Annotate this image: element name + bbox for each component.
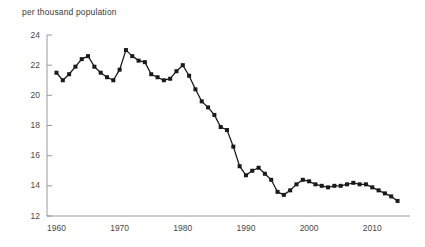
data-point bbox=[250, 169, 254, 173]
data-point bbox=[313, 182, 317, 186]
data-point bbox=[276, 190, 280, 194]
data-point bbox=[168, 77, 172, 81]
data-point bbox=[307, 179, 311, 183]
data-point bbox=[174, 69, 178, 73]
data-point bbox=[269, 178, 273, 182]
data-point bbox=[294, 182, 298, 186]
y-tick-label: 20 bbox=[14, 90, 40, 100]
data-point bbox=[193, 87, 197, 91]
series-line bbox=[56, 50, 397, 201]
data-point bbox=[339, 184, 343, 188]
data-point bbox=[118, 68, 122, 72]
x-tick-label: 1960 bbox=[36, 223, 76, 233]
data-point bbox=[263, 172, 267, 176]
data-point bbox=[105, 75, 109, 79]
data-point bbox=[67, 72, 71, 76]
data-point bbox=[345, 182, 349, 186]
chart-axis-title: per thousand population bbox=[22, 7, 117, 17]
data-point bbox=[137, 59, 141, 63]
data-point bbox=[288, 188, 292, 192]
data-point bbox=[282, 193, 286, 197]
data-point bbox=[212, 113, 216, 117]
data-point bbox=[187, 74, 191, 78]
data-point bbox=[370, 185, 374, 189]
data-point bbox=[396, 199, 400, 203]
y-tick-label: 22 bbox=[14, 60, 40, 70]
data-point bbox=[86, 54, 90, 58]
data-point bbox=[219, 125, 223, 129]
data-point bbox=[351, 181, 355, 185]
plot-area bbox=[47, 35, 407, 216]
y-tick-label: 12 bbox=[14, 211, 40, 221]
data-point bbox=[124, 48, 128, 52]
data-point bbox=[162, 78, 166, 82]
data-point bbox=[99, 71, 103, 75]
data-point bbox=[130, 54, 134, 58]
data-point bbox=[156, 75, 160, 79]
data-point bbox=[111, 78, 115, 82]
data-point bbox=[92, 65, 96, 69]
data-point bbox=[80, 57, 84, 61]
data-point bbox=[149, 72, 153, 76]
data-point bbox=[231, 145, 235, 149]
data-point bbox=[61, 78, 65, 82]
x-tick-label: 1970 bbox=[100, 223, 140, 233]
data-point bbox=[54, 71, 58, 75]
y-tick-label: 24 bbox=[14, 30, 40, 40]
y-tick-label: 16 bbox=[14, 150, 40, 160]
series-plot bbox=[47, 35, 407, 216]
data-point bbox=[332, 184, 336, 188]
data-point bbox=[301, 178, 305, 182]
x-tick-label: 2000 bbox=[289, 223, 329, 233]
data-point bbox=[225, 128, 229, 132]
data-point bbox=[377, 188, 381, 192]
data-point bbox=[238, 164, 242, 168]
series-markers bbox=[54, 48, 399, 203]
x-tick-label: 1990 bbox=[226, 223, 266, 233]
data-point bbox=[257, 166, 261, 170]
x-tick-label: 1980 bbox=[163, 223, 203, 233]
y-tick-label: 14 bbox=[14, 180, 40, 190]
data-point bbox=[181, 63, 185, 67]
data-point bbox=[320, 184, 324, 188]
data-point bbox=[389, 194, 393, 198]
x-tick-label: 2010 bbox=[352, 223, 392, 233]
data-point bbox=[200, 99, 204, 103]
data-point bbox=[73, 65, 77, 69]
data-point bbox=[143, 60, 147, 64]
data-point bbox=[326, 185, 330, 189]
data-point bbox=[244, 173, 248, 177]
y-tick-label: 18 bbox=[14, 120, 40, 130]
data-point bbox=[206, 105, 210, 109]
chart-figure: per thousand population 12141618202224 1… bbox=[0, 0, 425, 247]
data-point bbox=[364, 182, 368, 186]
data-point bbox=[358, 182, 362, 186]
data-point bbox=[383, 191, 387, 195]
